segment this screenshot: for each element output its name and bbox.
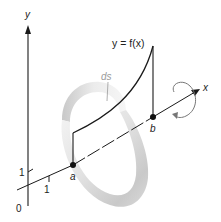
point-b-label: b (150, 123, 156, 134)
origin-label: 0 (16, 203, 22, 214)
y-axis (25, 25, 33, 206)
surface-of-revolution-diagram: y x 0 1 1 y = f(x) ds a b (0, 0, 221, 222)
x-axis-label: x (202, 82, 209, 93)
x-tick-label: 1 (44, 184, 50, 195)
point-a-label: a (70, 171, 76, 182)
ribbon-band-back (62, 82, 126, 122)
y-axis-label: y (24, 9, 31, 20)
point-b (150, 114, 156, 120)
x-axis (17, 89, 200, 190)
y-axis-arrow-icon (25, 25, 31, 34)
rotation-arrow-icon (172, 82, 196, 119)
y-tick-label: 1 (19, 167, 25, 178)
point-a (70, 162, 76, 168)
ds-label: ds (101, 71, 112, 82)
ribbon-band-front (61, 110, 148, 207)
curve-equation-label: y = f(x) (112, 37, 144, 49)
